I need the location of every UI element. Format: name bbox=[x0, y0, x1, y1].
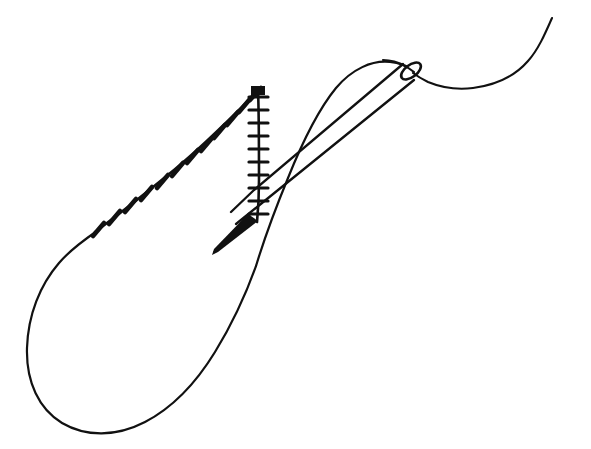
thread-loop-right-arc bbox=[256, 62, 414, 266]
stitch-tick bbox=[93, 223, 104, 236]
needle-group bbox=[212, 59, 424, 255]
illustration-canvas: Blanket stitch with threaded needle Line… bbox=[0, 0, 591, 449]
stitch-tick bbox=[141, 187, 152, 200]
needle-point-icon bbox=[212, 214, 258, 255]
stitch-rows-group bbox=[93, 86, 268, 236]
stitch-ticks-diagonal bbox=[93, 88, 261, 236]
working-thread-tail bbox=[413, 18, 552, 89]
needle-and-stitch-drawing bbox=[0, 0, 591, 449]
stitch-tick bbox=[125, 199, 136, 212]
stitch-apex-knot bbox=[251, 86, 265, 95]
thread-loop-left-arc bbox=[27, 231, 256, 433]
stitch-tick bbox=[109, 211, 120, 224]
needle-point-edge bbox=[214, 215, 250, 252]
